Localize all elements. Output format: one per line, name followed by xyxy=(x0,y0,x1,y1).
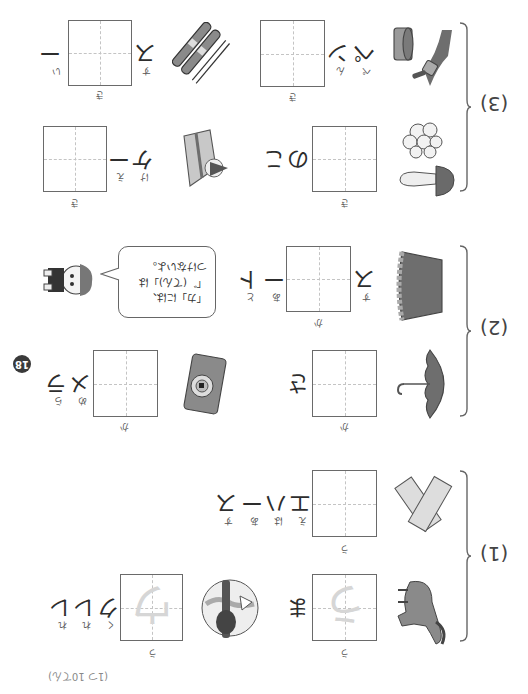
given-kana: ケ xyxy=(130,148,154,170)
trace-guide-glyph: う xyxy=(313,575,376,640)
ruby-box: か xyxy=(338,422,350,431)
ruby-box: う xyxy=(338,544,350,553)
section-1-label: (1) xyxy=(480,542,508,566)
given-kana: ペ xyxy=(352,42,376,64)
answer-box-camera[interactable] xyxy=(93,350,158,417)
answer-box-keki[interactable] xyxy=(43,126,107,192)
ruby: あ xyxy=(270,292,282,301)
skirt-illustration xyxy=(394,250,450,322)
given-kana: ー xyxy=(107,148,131,170)
trace-guide-glyph: ウ xyxy=(121,575,182,640)
paint-can-brush-illustration xyxy=(390,26,454,88)
given-kana: ク xyxy=(96,596,120,618)
section-3-label: (3) xyxy=(480,92,508,116)
wafers-illustration xyxy=(394,472,454,536)
ruby-box: き xyxy=(68,198,80,207)
skis-illustration xyxy=(172,22,232,84)
mushrooms-illustration xyxy=(396,118,456,200)
ukulele-player-illustration xyxy=(198,574,260,642)
answer-box-skirt[interactable] xyxy=(286,246,351,312)
ruby: い xyxy=(50,66,62,75)
ruby: え xyxy=(114,172,126,181)
given-kana: ー xyxy=(262,268,286,290)
answer-box-ski[interactable] xyxy=(68,20,132,86)
given-kana: ま xyxy=(286,596,310,618)
given-kana: ハ xyxy=(264,492,288,514)
ruby: く xyxy=(104,620,116,629)
bubble-line-2: 「゛(てん)」は xyxy=(127,274,207,289)
ruby: す xyxy=(222,516,234,525)
ruby: ら xyxy=(52,396,64,405)
given-kana: ン xyxy=(326,42,350,64)
given-kana: ト xyxy=(236,268,260,290)
given-kana: ー xyxy=(240,492,264,514)
ruby-box: か xyxy=(312,318,324,327)
ruby: ん xyxy=(334,66,346,75)
ruby-box: か xyxy=(118,422,130,431)
given-kana: ラ xyxy=(44,372,68,394)
page-number: 18 xyxy=(15,359,29,370)
given-kana: さ xyxy=(286,372,310,394)
given-kana: メ xyxy=(68,372,92,394)
child-character-illustration xyxy=(42,252,100,308)
answer-box-horse[interactable]: う xyxy=(312,574,377,641)
ruby: れ xyxy=(56,620,68,629)
given-kana: こ xyxy=(262,148,286,170)
ruby: け xyxy=(138,172,150,181)
section-1-brace xyxy=(458,470,472,642)
cake-slice-illustration xyxy=(176,128,232,192)
ruby: す xyxy=(360,292,372,301)
given-kana: ス xyxy=(214,492,238,514)
section-2-label: (2) xyxy=(480,316,508,340)
given-kana: ー xyxy=(38,42,62,64)
answer-box-wafers[interactable] xyxy=(312,470,377,537)
answer-box-penki[interactable] xyxy=(260,20,325,87)
ruby: ぺ xyxy=(360,66,372,75)
bubble-tail xyxy=(100,266,120,282)
given-kana: ス xyxy=(352,268,376,290)
bubble-line-1: 「カ」には、 xyxy=(127,290,207,305)
answer-box-umbrella[interactable] xyxy=(312,350,377,417)
camera-illustration xyxy=(182,352,228,416)
section-2-brace xyxy=(458,245,472,417)
ruby-box: き xyxy=(338,198,350,207)
section-3-brace xyxy=(458,22,472,192)
ruby: す xyxy=(140,66,152,75)
bubble-line-3: つけないよ。 xyxy=(127,259,207,274)
ruby: あ xyxy=(248,516,260,525)
ruby-box: き xyxy=(286,92,298,101)
given-kana: レ xyxy=(72,596,96,618)
score-note: (1つ 10てん) xyxy=(48,670,108,685)
given-kana: レ xyxy=(48,596,72,618)
ruby: は xyxy=(272,516,284,525)
ruby: め xyxy=(76,396,88,405)
speech-bubble: 「カ」には、 「゛(てん)」は つけないよ。 xyxy=(118,246,216,318)
answer-box-kinoko[interactable] xyxy=(312,126,377,192)
ruby-box: き xyxy=(93,90,105,99)
page-number-badge: 18 xyxy=(13,355,31,373)
answer-box-ukulele[interactable]: ウ xyxy=(120,574,183,641)
umbrella-illustration xyxy=(394,346,450,422)
given-kana: ス xyxy=(133,42,157,64)
ruby: え xyxy=(296,516,308,525)
ruby: れ xyxy=(80,620,92,629)
ruby-box: う xyxy=(146,648,158,657)
given-kana: の xyxy=(286,148,310,170)
ruby: と xyxy=(244,292,256,301)
ruby-box: う xyxy=(338,648,350,657)
horse-illustration xyxy=(392,572,454,648)
given-kana: エ xyxy=(288,492,312,514)
